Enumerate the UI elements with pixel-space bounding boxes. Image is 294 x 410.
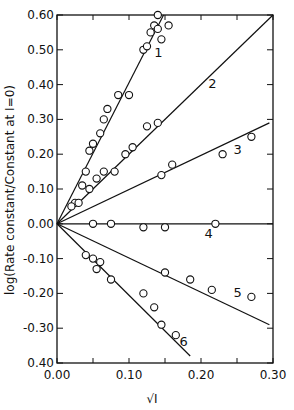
data-point-series-1 — [86, 147, 93, 154]
data-point-series-2 — [154, 119, 161, 126]
data-point-series-6 — [140, 290, 147, 297]
data-point-series-1 — [154, 25, 161, 32]
data-point-series-3 — [219, 151, 226, 158]
y-tick-label: 0.50 — [27, 43, 54, 57]
data-point-series-2 — [129, 144, 136, 151]
data-point-series-6 — [89, 255, 96, 262]
data-point-series-3 — [158, 171, 165, 178]
data-point-series-4 — [161, 224, 168, 231]
chart: 0.000.100.200.300.600.500.400.300.200.10… — [0, 0, 294, 410]
data-point-series-2 — [143, 123, 150, 130]
data-point-series-3 — [248, 133, 255, 140]
data-point-series-4 — [107, 220, 114, 227]
x-tick-label: 0.00 — [44, 368, 71, 382]
x-tick-label: 0.10 — [116, 368, 143, 382]
series-label-5: 5 — [233, 285, 241, 300]
y-tick-label: -0.10 — [23, 252, 54, 266]
data-point-series-1 — [104, 105, 111, 112]
y-tick-label: 0.40 — [27, 356, 54, 370]
data-point-series-1 — [165, 22, 172, 29]
series-label-2: 2 — [208, 76, 216, 91]
data-point-series-2 — [100, 168, 107, 175]
y-tick-label: 0.00 — [27, 217, 54, 231]
data-point-series-1 — [115, 91, 122, 98]
x-tick-label: 0.30 — [260, 368, 287, 382]
x-axis-title: √I — [146, 392, 157, 406]
data-point-series-4 — [89, 220, 96, 227]
y-tick-label: 0.30 — [27, 112, 54, 126]
data-point-series-3 — [169, 161, 176, 168]
series-label-1: 1 — [154, 45, 162, 60]
data-point-series-5 — [161, 269, 168, 276]
data-point-series-5 — [208, 286, 215, 293]
data-point-series-1 — [89, 140, 96, 147]
data-point-series-1 — [97, 130, 104, 137]
x-tick-label: 0.20 — [188, 368, 215, 382]
data-point-series-2 — [68, 203, 75, 210]
data-point-series-6 — [172, 332, 179, 339]
y-tick-label: 0.40 — [27, 78, 54, 92]
data-point-series-1 — [147, 29, 154, 36]
data-point-series-5 — [248, 293, 255, 300]
data-point-series-1 — [143, 43, 150, 50]
data-point-series-2 — [86, 185, 93, 192]
data-point-series-4 — [140, 224, 147, 231]
data-point-series-1 — [125, 91, 132, 98]
data-point-series-6 — [151, 304, 158, 311]
data-point-series-1 — [79, 182, 86, 189]
data-point-series-6 — [97, 258, 104, 265]
y-tick-label: 0.10 — [27, 182, 54, 196]
data-point-series-1 — [158, 36, 165, 43]
y-tick-label: 0.60 — [27, 8, 54, 22]
data-point-series-6 — [93, 265, 100, 272]
data-point-series-6 — [82, 252, 89, 259]
series-label-6: 6 — [179, 334, 187, 349]
y-tick-label: 0.20 — [27, 147, 54, 161]
data-points — [68, 11, 255, 338]
data-point-series-1 — [100, 116, 107, 123]
data-point-series-2 — [111, 168, 118, 175]
series-label-4: 4 — [205, 226, 213, 241]
data-point-series-2 — [93, 175, 100, 182]
fit-line-6 — [57, 224, 190, 356]
series-label-3: 3 — [233, 142, 241, 157]
data-point-series-1 — [82, 168, 89, 175]
data-point-series-5 — [187, 276, 194, 283]
y-axis-title: log(Rate constant/Constant at I=0) — [3, 85, 17, 295]
y-tick-label: -0.20 — [23, 286, 54, 300]
plot-axes: 0.000.100.200.300.600.500.400.300.200.10… — [23, 8, 286, 382]
data-point-series-2 — [75, 199, 82, 206]
y-tick-label: -0.30 — [23, 321, 54, 335]
data-point-series-2 — [122, 151, 129, 158]
series-labels: 123456 — [154, 45, 241, 349]
data-point-series-6 — [107, 276, 114, 283]
data-point-series-1 — [154, 11, 161, 18]
data-point-series-6 — [158, 321, 165, 328]
